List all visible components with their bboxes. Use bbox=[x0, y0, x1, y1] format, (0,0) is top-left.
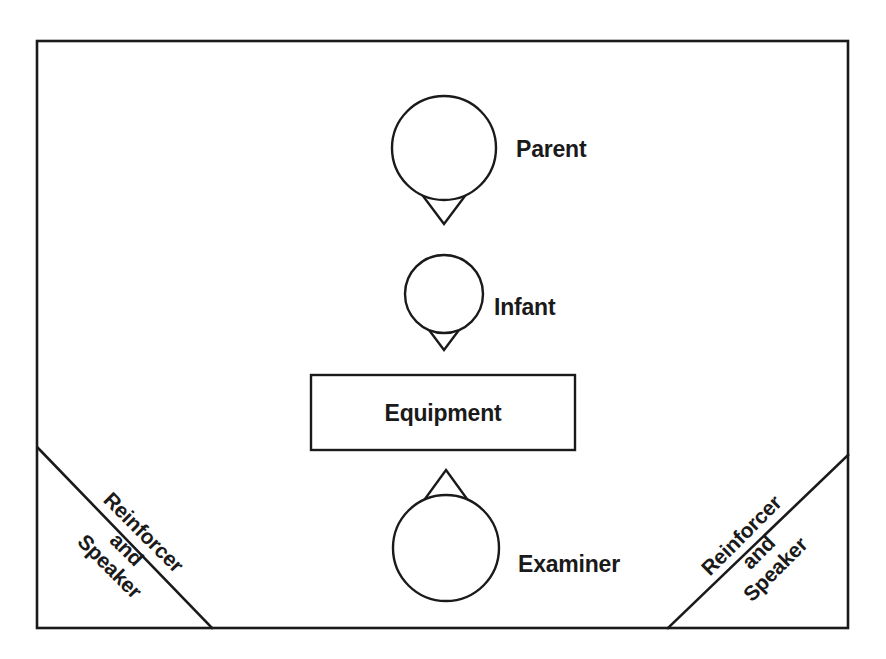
infant-label: Infant bbox=[494, 294, 556, 320]
examiner-label: Examiner bbox=[518, 551, 620, 577]
parent-head-icon bbox=[392, 96, 496, 200]
equipment-node[interactable]: Equipment bbox=[311, 375, 575, 450]
diagram-canvas: Parent Infant Equipment Examiner Reinfor… bbox=[0, 0, 886, 659]
infant-head-icon bbox=[405, 255, 483, 333]
room-layout-diagram: Parent Infant Equipment Examiner Reinfor… bbox=[0, 0, 886, 659]
examiner-head-icon bbox=[393, 495, 499, 601]
parent-label: Parent bbox=[516, 136, 587, 162]
equipment-label: Equipment bbox=[384, 400, 502, 426]
